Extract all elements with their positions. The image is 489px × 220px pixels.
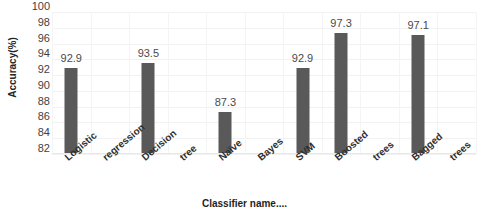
bar-value-label: 97.3 [330,18,351,29]
y-axis-tick-label: 100 [16,1,50,12]
bar-value-label: 87.3 [215,97,236,108]
bar-slot: 97.3 [322,12,361,154]
bar-chart: Accuracy(%) 100989694929088868482 92.993… [0,0,489,220]
y-axis-tick-label: 98 [16,16,50,27]
x-axis-title: Classifier name.... [0,198,489,209]
bar-value-label: 97.1 [407,20,428,31]
y-axis-tick-label: 86 [16,111,50,122]
y-axis-tick-label: 82 [16,143,50,154]
bar-value-label: 92.9 [292,53,313,64]
bar[interactable] [65,68,78,154]
bar[interactable] [335,33,348,154]
gridline-vertical [245,12,246,154]
y-axis-tick-label: 90 [16,79,50,90]
gridline-vertical [476,12,477,154]
y-axis-tick-label: 94 [16,48,50,59]
y-axis-tick-label: 92 [16,64,50,75]
x-axis-tick-labels: LogisticregressionDecisiontreeNaïveBayes… [52,155,476,197]
plot-area: 92.993.587.392.997.397.1 [52,12,476,154]
bar[interactable] [412,35,425,154]
bar-slot: 97.1 [399,12,438,154]
y-axis-tick-label: 84 [16,127,50,138]
bar-slot: 87.3 [206,12,245,154]
y-axis-tick-label: 88 [16,95,50,106]
bar-slot: 92.9 [52,12,91,154]
y-axis-tick-label: 96 [16,32,50,43]
bar-value-label: 92.9 [61,53,82,64]
bar-slot: 92.9 [283,12,322,154]
bar[interactable] [142,63,155,154]
y-axis-tick-labels: 100989694929088868482 [16,6,50,154]
bar-value-label: 93.5 [138,48,159,59]
